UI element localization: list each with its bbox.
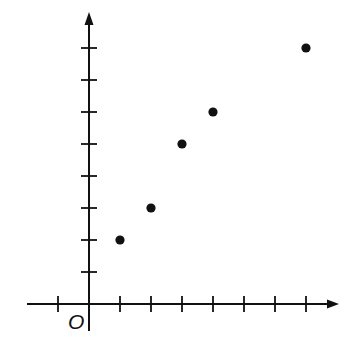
axis-ticks <box>58 48 306 312</box>
data-point <box>115 235 124 244</box>
data-point <box>301 43 310 52</box>
scatter-plot <box>0 0 349 345</box>
data-point <box>208 107 217 116</box>
data-points <box>115 43 310 244</box>
y-axis-arrow-icon <box>85 12 94 25</box>
x-axis-arrow-icon <box>327 300 339 309</box>
data-point <box>177 139 186 148</box>
origin-label: O <box>68 311 84 332</box>
axes <box>27 12 339 331</box>
data-point <box>146 203 155 212</box>
